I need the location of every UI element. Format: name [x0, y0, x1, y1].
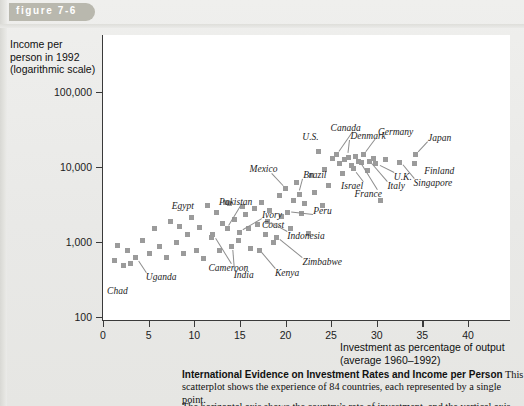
x-tick-mark: [377, 321, 378, 327]
x-tick-mark: [149, 321, 150, 327]
data-point: [351, 166, 356, 171]
data-point: [147, 251, 152, 256]
x-tick-mark: [103, 321, 104, 327]
country-label-kenya: Kenya: [275, 268, 299, 278]
data-point: [210, 232, 215, 237]
page-spine-shading: [0, 0, 7, 406]
country-label-france: France: [355, 189, 382, 199]
data-point: [121, 263, 126, 268]
country-label-uganda: Uganda: [146, 272, 177, 282]
country-label-italy: Italy: [387, 181, 404, 191]
country-label-peru: Peru: [313, 206, 331, 216]
data-point: [361, 152, 366, 157]
y-tick-mark: [96, 242, 103, 243]
figure-tab-label: figure 7-6: [16, 5, 77, 16]
x-tick-label: 20: [271, 329, 301, 341]
data-point: [271, 240, 276, 245]
y-tick-label: 1,000: [0, 236, 92, 248]
y-axis-line: [102, 35, 103, 321]
country-label-japan: Japan: [428, 133, 451, 143]
data-point: [255, 222, 260, 227]
caption-clipped-line: The horizontal axis shows the country’s …: [182, 401, 524, 406]
data-point: [112, 258, 117, 263]
x-tick-label: 35: [407, 329, 437, 341]
y-tick-label: 100: [0, 311, 92, 323]
data-point: [168, 219, 173, 224]
data-point: [157, 244, 162, 249]
data-point: [334, 152, 339, 157]
x-tick-mark: [422, 321, 423, 327]
country-label-indonesia: Indonesia: [287, 231, 324, 241]
x-tick-mark: [286, 321, 287, 327]
data-point: [237, 230, 242, 235]
data-point: [248, 246, 253, 251]
data-point: [225, 226, 230, 231]
data-point: [316, 149, 321, 154]
country-label-u-s: U.S.: [302, 132, 318, 142]
data-point: [371, 156, 376, 161]
country-label-egypt: Egypt: [172, 201, 194, 211]
data-point: [174, 240, 179, 245]
country-label-singapore: Singapore: [414, 178, 453, 188]
data-point: [181, 251, 186, 256]
data-point: [236, 238, 241, 243]
x-tick-mark: [194, 321, 195, 327]
data-point: [397, 160, 402, 165]
country-label-germany: Germany: [378, 127, 413, 137]
y-tick-mark: [96, 167, 103, 168]
data-point: [115, 243, 120, 248]
x-tick-label: 30: [362, 329, 392, 341]
x-tick-label: 5: [134, 329, 164, 341]
x-tick-label: 0: [88, 329, 118, 341]
data-point: [340, 171, 345, 176]
data-point: [259, 200, 264, 205]
y-tick-label: 100,000: [0, 86, 92, 98]
data-point: [283, 186, 288, 191]
data-point: [189, 215, 194, 220]
data-point: [337, 161, 342, 166]
x-axis-title-line-1: Investment as percentage of output: [340, 341, 524, 354]
x-axis-title: Investment as percentage of output (aver…: [340, 341, 524, 366]
data-point: [326, 183, 331, 188]
data-point: [413, 152, 418, 157]
data-point: [152, 226, 157, 231]
y-axis-title-line-2: person in 1992: [10, 51, 105, 64]
data-point: [128, 261, 133, 266]
data-point: [243, 212, 248, 217]
y-axis-title: Income per person in 1992 (logarithmic s…: [10, 38, 105, 76]
data-point: [312, 190, 317, 195]
x-tick-label: 40: [453, 329, 483, 341]
country-label-pakistan: Pakistan: [219, 197, 252, 207]
x-tick-label: 15: [225, 329, 255, 341]
y-tick-mark: [96, 317, 103, 318]
data-point: [412, 161, 417, 166]
country-label-chad: Chad: [107, 286, 128, 296]
data-point: [346, 155, 351, 160]
data-point: [201, 256, 206, 261]
data-point: [229, 244, 234, 249]
data-point: [291, 198, 296, 203]
data-point: [214, 210, 219, 215]
data-point: [185, 232, 190, 237]
caption-heading: International Evidence on Investment Rat…: [182, 369, 503, 380]
data-point: [302, 201, 307, 206]
x-tick-mark: [240, 321, 241, 327]
country-label-brazil: Brazil: [303, 170, 326, 180]
data-point: [294, 180, 299, 185]
data-point: [177, 224, 182, 229]
y-axis-title-line-3: (logarithmic scale): [10, 63, 105, 76]
data-point: [194, 248, 199, 253]
x-axis-title-line-2: (average 1960–1992): [340, 354, 524, 367]
data-point: [277, 193, 282, 198]
y-axis-title-line-1: Income per: [10, 38, 105, 51]
country-label-mexico: Mexico: [250, 164, 278, 174]
country-label-india: India: [234, 270, 254, 280]
data-point: [140, 238, 145, 243]
x-tick-label: 25: [316, 329, 346, 341]
data-point: [383, 157, 388, 162]
data-point: [252, 206, 257, 211]
data-point: [257, 248, 262, 253]
data-point: [205, 203, 210, 208]
data-point: [297, 192, 302, 197]
x-tick-mark: [468, 321, 469, 327]
